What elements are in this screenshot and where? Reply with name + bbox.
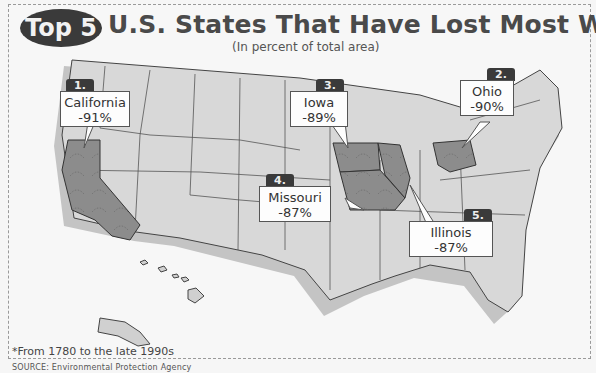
state-value: -87% [410, 240, 492, 255]
state-name: Ohio [461, 84, 513, 99]
footnote: *From 1780 to the late 1990s [12, 345, 174, 358]
state-value: -87% [260, 205, 330, 220]
top5-badge: Top 5 [20, 9, 102, 47]
state-name: Missouri [260, 190, 330, 205]
callout-missouri: Missouri -87% [259, 186, 331, 222]
state-name: California [61, 95, 129, 110]
state-value: -90% [461, 99, 513, 114]
callout-california: California -91% [60, 91, 130, 127]
state-value: -91% [61, 110, 129, 125]
alaska [98, 318, 150, 346]
callout-illinois: Illinois -87% [409, 221, 493, 257]
state-value: -89% [291, 110, 347, 125]
callout-iowa: Iowa -89% [290, 91, 348, 127]
subtitle: (In percent of total area) [232, 40, 380, 54]
hawaii [140, 260, 204, 303]
callout-ohio: Ohio -90% [460, 80, 514, 116]
state-name: Iowa [291, 95, 347, 110]
page-title: U.S. States That Have Lost Most Wetlands… [108, 10, 596, 39]
state-name: Illinois [410, 225, 492, 240]
source-credit: SOURCE: Environmental Protection Agency [12, 363, 192, 372]
